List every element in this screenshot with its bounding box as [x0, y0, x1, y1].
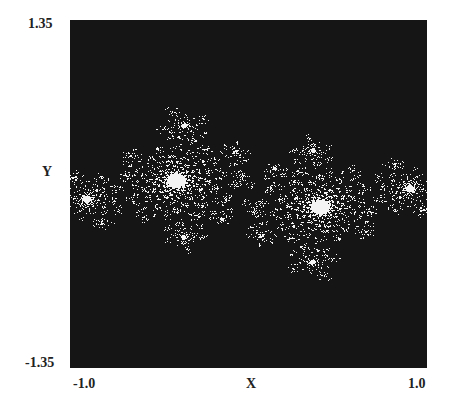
y-tick-top: 1.35 — [28, 16, 53, 32]
julia-set-plot — [70, 20, 427, 368]
y-tick-bottom: -1.35 — [25, 355, 54, 371]
x-axis-label: X — [246, 376, 256, 392]
y-axis-label: Y — [42, 164, 52, 180]
x-tick-left: -1.0 — [73, 376, 95, 392]
x-tick-right: 1.0 — [408, 376, 426, 392]
julia-set-canvas — [70, 20, 427, 368]
